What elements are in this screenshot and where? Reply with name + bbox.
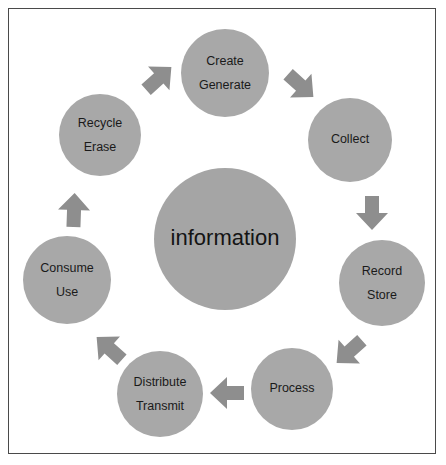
- node-label-create-generate-line2: Generate: [199, 78, 251, 92]
- node-consume-use[interactable]: ConsumeUse: [23, 236, 111, 324]
- node-label-record-store-line2: Store: [367, 288, 397, 302]
- node-label-recycle-erase-line2: Erase: [84, 140, 117, 154]
- node-label-create-generate-line1: Create: [206, 54, 244, 68]
- node-circle-create-generate[interactable]: [181, 29, 269, 117]
- node-circle-consume-use[interactable]: [23, 236, 111, 324]
- node-label-consume-use-line1: Consume: [40, 261, 94, 275]
- arrow-recycle-to-create: [135, 55, 182, 102]
- node-collect[interactable]: Collect: [308, 98, 392, 182]
- arrow-collect-to-record: [356, 196, 388, 230]
- node-circle-recycle-erase[interactable]: [59, 94, 141, 176]
- node-circle-record-store[interactable]: [339, 240, 425, 326]
- hub-label-information: information: [171, 225, 280, 250]
- arrow-distribute-to-consume: [86, 325, 133, 372]
- node-label-record-store-line1: Record: [362, 264, 402, 278]
- node-label-recycle-erase-line1: Recycle: [78, 116, 123, 130]
- node-label-consume-use-line2: Use: [56, 285, 78, 299]
- node-label-process-line1: Process: [269, 381, 314, 395]
- node-distribute-transmit[interactable]: DistributeTransmit: [117, 351, 203, 437]
- arrow-consume-to-recycle: [57, 192, 90, 227]
- node-label-collect-line1: Collect: [331, 132, 370, 146]
- arrow-create-to-collect: [277, 62, 324, 109]
- cycle-diagram-canvas: CreateGenerateCollectRecordStoreProcessD…: [0, 0, 446, 465]
- node-circle-distribute-transmit[interactable]: [117, 351, 203, 437]
- node-create-generate[interactable]: CreateGenerate: [181, 29, 269, 117]
- node-record-store[interactable]: RecordStore: [339, 240, 425, 326]
- node-label-distribute-transmit-line2: Transmit: [136, 399, 185, 413]
- arrow-process-to-distribute: [210, 377, 244, 409]
- node-recycle-erase[interactable]: RecycleErase: [59, 94, 141, 176]
- arrow-record-to-process: [326, 328, 373, 375]
- information-lifecycle-diagram: CreateGenerateCollectRecordStoreProcessD…: [0, 0, 446, 465]
- node-process[interactable]: Process: [251, 348, 333, 430]
- node-label-distribute-transmit-line1: Distribute: [134, 375, 187, 389]
- hub-layer: information: [154, 168, 296, 310]
